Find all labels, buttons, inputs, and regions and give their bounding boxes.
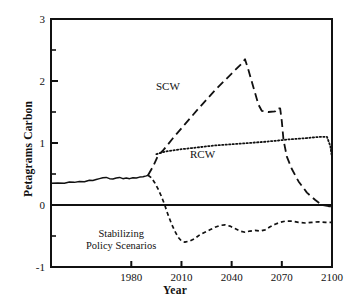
x-tick-label-2040: 2040 (221, 271, 243, 283)
stabilizing-policy-scenarios-label: Stabilizing Policy Scenarios (86, 228, 156, 252)
y-tick-label-2: 2 (5, 75, 45, 87)
x-tick-label-2010: 2010 (170, 271, 192, 283)
series-line-historical (51, 175, 148, 183)
stabilizing-label-line-1: Stabilizing (86, 228, 156, 240)
x-tick-label-2100: 2100 (321, 271, 343, 283)
y-axis-title: Petagrams Carbon (22, 89, 34, 209)
carbon-emissions-chart: -10123 19802010204020702100 Petagrams Ca… (0, 0, 350, 307)
stabilizing-label-line-2: Policy Scenarios (86, 240, 156, 252)
scw-series-label: SCW (156, 80, 180, 92)
rcw-series-label: RCW (190, 148, 215, 160)
series-line-rcw (156, 137, 332, 158)
y-tick-label--1: -1 (5, 261, 45, 273)
x-tick-label-2070: 2070 (271, 271, 293, 283)
y-tick-label-3: 3 (5, 13, 45, 25)
series-line-stabilizing-policy-scenarios (148, 175, 332, 242)
x-axis-title: Year (0, 284, 350, 296)
plot-canvas (0, 0, 350, 307)
x-tick-label-1980: 1980 (120, 271, 142, 283)
